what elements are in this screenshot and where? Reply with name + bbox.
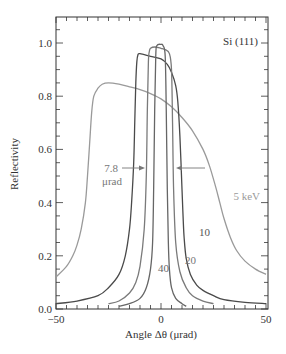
reflectivity-chart: −500500.00.20.40.60.81.0 Reflectivity An… xyxy=(0,0,286,354)
x-tick-label: 50 xyxy=(261,313,273,325)
series-label-40kev: 40 xyxy=(158,262,170,274)
width-annotation-value: 7.8 xyxy=(104,162,118,174)
crystal-label: Si (111) xyxy=(223,35,258,48)
x-axis-label: Angle Δθ (μrad) xyxy=(125,328,197,341)
y-tick-label: 1.0 xyxy=(38,37,52,49)
series-label-5kev: 5 keV xyxy=(233,190,260,202)
y-tick-label: 0.2 xyxy=(38,250,52,262)
y-axis-label: Reflectivity xyxy=(8,138,20,190)
y-tick-label: 0.6 xyxy=(38,143,52,155)
y-tick-label: 0.8 xyxy=(38,90,52,102)
curve-5-kev xyxy=(56,83,266,277)
x-tick-label: 0 xyxy=(158,313,164,325)
width-annotation-unit: μrad xyxy=(102,175,122,187)
y-tick-label: 0.4 xyxy=(38,197,52,209)
y-tick-label: 0.0 xyxy=(38,303,52,315)
curve-40-kev xyxy=(119,44,186,306)
series-label-10kev: 10 xyxy=(199,226,211,238)
width-arrow-right xyxy=(176,166,205,171)
series-label-20kev: 20 xyxy=(185,254,197,266)
